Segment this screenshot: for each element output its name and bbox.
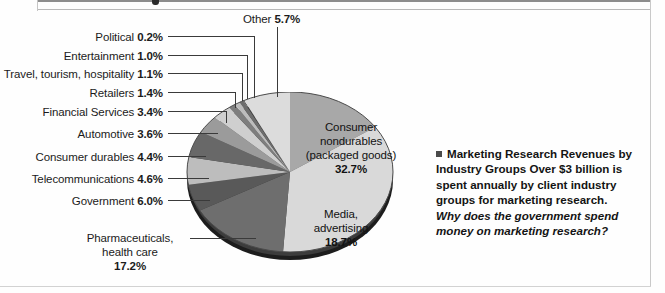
slice-label-line2: nondurables	[296, 134, 406, 148]
callout-pharmaceuticals: Pharmaceuticals, health care 17.2%	[75, 231, 185, 273]
leader-line-travel-h	[168, 73, 242, 74]
slice-label-media-advertising: Media, advertising 18.7%	[299, 207, 383, 249]
callout-retailers: Retailers 1.4%	[40, 86, 163, 100]
callout-value-financial-services: 3.4%	[137, 106, 163, 118]
figure-bottom-rule	[0, 286, 651, 287]
leader-line-other	[277, 27, 278, 97]
slice-label-line3: (packaged goods)	[296, 148, 406, 162]
callout-label-pharmaceuticals-line2: health care	[75, 245, 185, 259]
callout-label-political: Political	[95, 31, 134, 43]
callout-other: Other 5.7%	[243, 12, 300, 26]
callout-value-government: 6.0%	[137, 195, 163, 207]
caption-question: Why does the government spend money on m…	[436, 208, 636, 239]
callout-financial-services: Financial Services 3.4%	[14, 105, 163, 119]
callout-value-travel-tourism: 1.1%	[137, 68, 163, 80]
leader-line-retailers-v	[235, 92, 236, 108]
callout-label-government: Government	[72, 195, 134, 207]
square-bullet-icon	[436, 151, 442, 157]
callout-label-other: Other	[243, 13, 271, 25]
callout-value-political: 0.2%	[137, 31, 163, 43]
callout-label-telecommunications: Telecommunications	[32, 173, 134, 185]
callout-value-automotive: 3.6%	[137, 128, 163, 140]
callout-telecommunications: Telecommunications 4.6%	[13, 172, 163, 186]
callout-political: Political 0.2%	[35, 30, 163, 44]
cropped-title-descender	[152, 0, 159, 5]
callout-government: Government 6.0%	[45, 194, 163, 208]
slice-label-line2: advertising	[299, 221, 383, 235]
leader-line-political-h	[168, 36, 254, 37]
leader-line-automotive-h	[168, 133, 218, 134]
slice-value-consumer-nondurables: 32.7%	[296, 162, 406, 176]
leader-line-financial-v	[226, 111, 227, 123]
callout-travel-tourism: Travel, tourism, hospitality 1.1%	[3, 67, 163, 81]
leader-line-retailers-h	[168, 92, 235, 93]
leader-line-financial-h	[168, 111, 226, 112]
figure-right-border	[650, 0, 651, 287]
figure-caption: Marketing Research Revenues by Industry …	[436, 146, 636, 238]
callout-value-pharmaceuticals: 17.2%	[75, 259, 185, 273]
callout-label-consumer-durables: Consumer durables	[35, 151, 134, 163]
leader-line-entertainment-h	[168, 55, 247, 56]
pie-chart-figure: Consumer nondurables (packaged goods) 32…	[0, 0, 665, 293]
leader-line-durables-h	[168, 156, 206, 157]
callout-label-retailers: Retailers	[90, 87, 134, 99]
slice-value-media-advertising: 18.7%	[299, 235, 383, 249]
leader-line-travel-v	[242, 73, 243, 101]
figure-left-border	[37, 0, 38, 11]
leader-line-telecom-h	[168, 178, 209, 179]
slice-label-line1: Media,	[299, 207, 383, 221]
callout-label-entertainment: Entertainment	[64, 50, 134, 62]
figure-top-rule	[38, 9, 650, 10]
callout-label-financial-services: Financial Services	[43, 106, 135, 118]
callout-value-entertainment: 1.0%	[137, 50, 163, 62]
callout-value-retailers: 1.4%	[137, 87, 163, 99]
callout-value-other: 5.7%	[274, 13, 300, 25]
callout-value-consumer-durables: 4.4%	[137, 151, 163, 163]
slice-label-line1: Consumer	[296, 120, 406, 134]
callout-label-automotive: Automotive	[78, 128, 135, 140]
figure-top-border	[38, 0, 650, 2]
callout-value-telecommunications: 4.6%	[137, 173, 163, 185]
callout-automotive: Automotive 3.6%	[40, 127, 163, 141]
callout-consumer-durables: Consumer durables 4.4%	[18, 150, 163, 164]
callout-entertainment: Entertainment 1.0%	[20, 49, 163, 63]
callout-label-pharmaceuticals-line1: Pharmaceuticals,	[75, 231, 185, 245]
leader-line-government-h	[168, 200, 210, 201]
leader-line-political-v	[254, 36, 255, 98]
slice-label-consumer-nondurables: Consumer nondurables (packaged goods) 32…	[296, 120, 406, 176]
callout-label-travel-tourism: Travel, tourism, hospitality	[4, 68, 134, 80]
leader-line-pharmaceuticals-h	[190, 238, 256, 239]
leader-line-entertainment-v	[247, 55, 248, 99]
